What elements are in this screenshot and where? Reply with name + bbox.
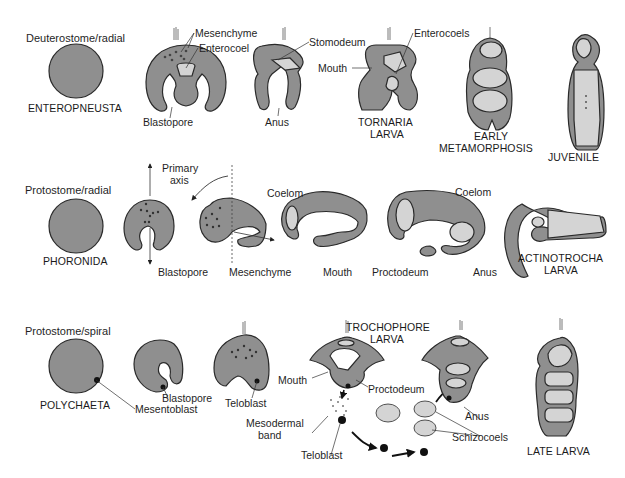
mesodermal-band-sequence — [330, 396, 436, 456]
stage-actinotrocha-line1: ACTINOTROCHA — [518, 253, 603, 265]
stage-tornaria-line1: TORNARIA — [358, 117, 413, 129]
label-mesentoblast: Mesentoblast — [135, 404, 197, 415]
stage-tornaria-line2: LARVA — [370, 129, 404, 141]
phoronida-egg — [49, 199, 103, 253]
label-mouth-2: Mouth — [323, 267, 352, 278]
spiral-segmenting-larva — [422, 320, 488, 402]
tornaria-larva — [359, 27, 418, 110]
deut-stomodeum-embryo — [254, 27, 303, 110]
label-coelom-1: Coelom — [267, 188, 303, 199]
label-anus-2: Anus — [473, 267, 497, 278]
spiral-teloblast-embryo — [214, 321, 269, 390]
stage-trochophore-line2: LARVA — [370, 334, 404, 346]
label-mesenchyme: Mesenchyme — [195, 28, 257, 39]
label-mesodermal-band-2: band — [258, 430, 281, 441]
deut-gastrula — [146, 27, 226, 111]
late-larva — [536, 318, 578, 436]
label-blastopore-2: Blastopore — [158, 267, 208, 278]
label-enterocoels: Enterocoels — [414, 28, 469, 39]
taxon-phoronida: PHORONIDA — [43, 256, 108, 268]
phor-coelom-stage — [282, 192, 367, 247]
taxon-enteropneusta: ENTEROPNEUSTA — [28, 103, 122, 115]
juvenile — [568, 35, 604, 150]
label-blastopore: Blastopore — [143, 117, 193, 128]
label-stomodeum: Stomodeum — [309, 37, 366, 48]
stage-late-larva: LATE LARVA — [527, 446, 590, 458]
row-title-deuterostome: Deuterostome/radial — [26, 32, 125, 44]
stage-juvenile: JUVENILE — [548, 152, 599, 164]
label-mouth: Mouth — [318, 63, 347, 74]
label-mouth-3: Mouth — [278, 375, 307, 386]
label-coelom-2: Coelom — [455, 187, 491, 198]
phor-gastrula — [124, 164, 174, 264]
phor-later-stage — [388, 191, 485, 256]
label-primary-axis-1: Primary — [162, 163, 198, 174]
stage-early-meta-line2: METAMORPHOSIS — [439, 143, 533, 155]
label-mesenchyme-2: Mesenchyme — [229, 267, 291, 278]
label-teloblast-2: Teloblast — [301, 450, 342, 461]
polychaeta-egg — [49, 339, 103, 393]
enteropneusta-egg — [49, 44, 103, 98]
phor-bent-embryo — [192, 165, 274, 265]
spiral-blastopore-embryo — [134, 340, 183, 392]
stage-actinotrocha-line2: LARVA — [544, 265, 578, 277]
row-title-protostome-spiral: Protostome/spiral — [25, 325, 111, 337]
label-teloblast-1: Teloblast — [225, 398, 266, 409]
label-proctodeum-2: Proctodeum — [368, 384, 425, 395]
label-proctodeum: Proctodeum — [372, 267, 429, 278]
label-schizocoels: Schizocoels — [452, 432, 508, 443]
label-enterocoel: Enterocoel — [199, 43, 249, 54]
stage-early-meta-line1: EARLY — [474, 131, 508, 143]
early-metamorphosis — [467, 27, 512, 130]
label-anus-3: Anus — [465, 411, 489, 422]
label-blastopore-3: Blastopore — [162, 393, 212, 404]
row-title-protostome-radial: Protostome/radial — [25, 184, 111, 196]
label-mesodermal-band-1: Mesodermal — [246, 418, 304, 429]
stage-trochophore-line1: TROCHOPHORE — [346, 322, 430, 334]
taxon-polychaeta: POLYCHAETA — [40, 400, 110, 412]
label-primary-axis-2: axis — [170, 175, 189, 186]
label-anus: Anus — [265, 117, 289, 128]
